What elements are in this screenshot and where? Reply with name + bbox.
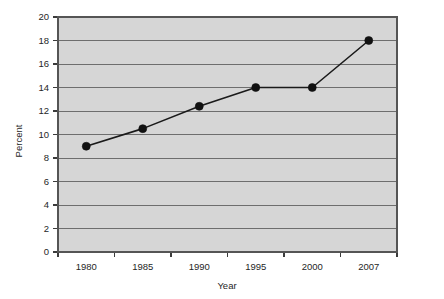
data-point-1995 — [252, 84, 260, 92]
line-chart: 02468101214161820 1980198519901995200020… — [0, 0, 444, 299]
y-tick-label-14: 14 — [38, 82, 49, 93]
y-tick-label-18: 18 — [38, 35, 49, 46]
x-tick-label-1995: 1995 — [245, 261, 266, 272]
y-tick-label-20: 20 — [38, 11, 49, 22]
y-axis-title: Percent — [13, 124, 24, 157]
y-tick-label-10: 10 — [38, 129, 49, 140]
data-point-2000 — [308, 84, 316, 92]
y-tick-label-16: 16 — [38, 58, 49, 69]
x-tick-label-2000: 2000 — [302, 261, 323, 272]
chart-svg: 02468101214161820 1980198519901995200020… — [0, 0, 444, 299]
x-axis-title: Year — [217, 280, 236, 291]
y-tick-label-8: 8 — [44, 152, 49, 163]
x-tick-label-1990: 1990 — [189, 261, 210, 272]
y-tick-label-2: 2 — [44, 223, 49, 234]
x-tick-label-2007: 2007 — [358, 261, 379, 272]
data-point-1980 — [82, 142, 90, 150]
data-point-1985 — [139, 125, 147, 133]
data-point-1990 — [195, 102, 203, 110]
y-tick-label-12: 12 — [38, 105, 49, 116]
y-tick-label-4: 4 — [44, 199, 49, 210]
x-tick-label-1985: 1985 — [132, 261, 153, 272]
y-tick-label-6: 6 — [44, 176, 49, 187]
x-tick-label-1980: 1980 — [76, 261, 97, 272]
y-tick-label-0: 0 — [44, 246, 49, 257]
data-point-2007 — [365, 37, 373, 45]
